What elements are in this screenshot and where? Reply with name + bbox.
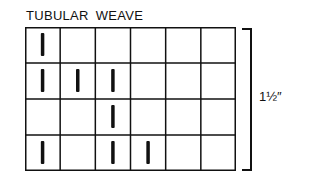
warp-mark — [146, 141, 150, 164]
weave-grid — [25, 27, 236, 171]
warp-mark — [111, 141, 115, 164]
weave-grid-graphic — [25, 27, 236, 171]
warp-mark — [76, 69, 80, 92]
diagram-title: TUBULAR WEAVE — [26, 8, 143, 23]
warp-mark — [111, 105, 115, 128]
warp-mark — [41, 141, 45, 164]
warp-mark — [41, 33, 45, 56]
warp-mark — [41, 69, 45, 92]
height-bracket — [242, 28, 252, 171]
warp-mark — [111, 69, 115, 92]
height-measurement-label: 1½″ — [259, 89, 282, 104]
